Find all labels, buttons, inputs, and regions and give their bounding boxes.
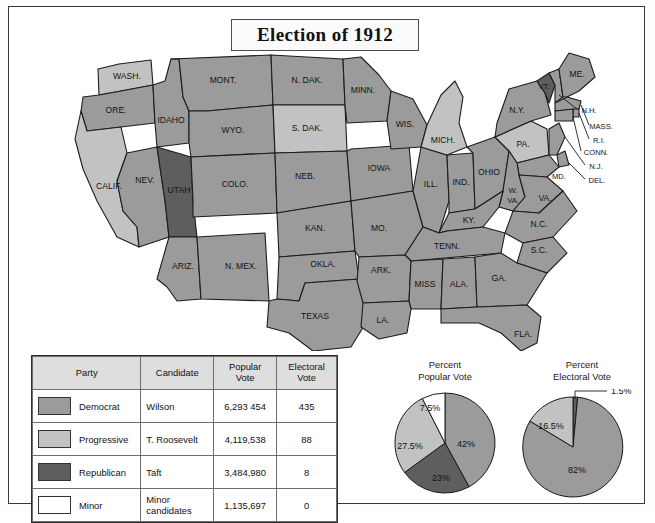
cell-candidate-minor: Minor candidates [141, 489, 214, 522]
state-label-minn: MINN. [351, 85, 375, 95]
leader-line-ri [579, 113, 589, 139]
state-del[interactable] [557, 151, 569, 167]
state-label-ky: KY. [463, 215, 476, 225]
state-label-idaho: IDAHO [157, 115, 185, 125]
state-label-va: VA. [538, 193, 551, 203]
state-label-tenn: TENN. [434, 241, 460, 251]
state-label-del: DEL. [589, 176, 606, 185]
cell-electoral-vote-democrat: 435 [277, 390, 337, 423]
table-row: Republican Taft 3,484,980 8 [33, 456, 337, 489]
state-label-mont: MONT. [210, 75, 237, 85]
electoral-vote-pie-title: Percent Electoral Vote [509, 359, 655, 383]
state-label-wva-line1: W. [509, 186, 518, 195]
state-conn[interactable] [555, 109, 573, 121]
state-label-ri: R.I. [593, 136, 605, 145]
cell-candidate-roosevelt: T. Roosevelt [141, 423, 214, 456]
state-label-ark: ARK. [371, 265, 391, 275]
page-title-text: Election of 1912 [257, 24, 393, 46]
column-header-electoral-line2: Vote [282, 373, 331, 384]
column-header-popular-line2: Vote [219, 373, 271, 384]
color-swatch-democrat [38, 397, 71, 415]
us-election-map: WASH. ORE. IDAHO MONT. N. DAK. MINN. WIS… [61, 51, 621, 351]
state-label-sc: S.C. [531, 245, 548, 255]
state-label-nc: N.C. [530, 219, 547, 229]
cell-popular-vote-minor: 1,135,697 [214, 489, 277, 522]
state-label-ind: IND. [452, 177, 469, 187]
state-label-calif: CALIF. [96, 181, 122, 191]
cell-candidate-taft: Taft [141, 456, 214, 489]
state-label-la: LA. [377, 315, 390, 325]
state-ark[interactable] [357, 255, 411, 303]
state-label-fla: FLA. [514, 329, 532, 339]
state-label-mass: MASS. [589, 122, 613, 131]
state-label-ill: ILL. [424, 179, 438, 189]
state-label-mich: MICH. [431, 135, 455, 145]
popular-vote-pie-chart: Percent Popular Vote 42% 23% 27.5% 7.5% [375, 359, 515, 499]
pie-label-progressive-pct: 27.5% [397, 441, 423, 451]
state-fla[interactable] [441, 305, 541, 351]
page-frame: Election of 1912 [8, 6, 645, 504]
table-row: Minor Minor candidates 1,135,697 0 [33, 489, 337, 522]
state-label-neb: NEB. [295, 171, 315, 181]
cell-candidate-wilson: Wilson [141, 390, 214, 423]
column-header-party: Party [33, 357, 141, 390]
state-nj[interactable] [549, 123, 565, 155]
state-label-me: ME. [569, 69, 584, 79]
table-header-row: Party Candidate Popular Vote Electoral V… [33, 357, 337, 390]
state-label-colo: COLO. [222, 179, 249, 189]
column-header-candidate: Candidate [141, 357, 214, 390]
state-label-wva-line2: VA. [507, 196, 519, 205]
cell-electoral-vote-minor: 0 [277, 489, 337, 522]
party-label-republican: Republican [79, 467, 126, 478]
state-label-okla: OKLA. [310, 259, 335, 269]
state-label-iowa: IOWA [368, 163, 391, 173]
cell-party-democrat: Democrat [33, 390, 141, 423]
cell-party-republican: Republican [33, 456, 141, 489]
state-label-mo: MO. [371, 223, 387, 233]
cell-electoral-vote-republican: 8 [277, 456, 337, 489]
cell-electoral-vote-progressive: 88 [277, 423, 337, 456]
state-label-texas: TEXAS [301, 311, 329, 321]
cell-popular-vote-democrat: 6,293 454 [214, 390, 277, 423]
color-swatch-progressive [38, 430, 71, 448]
state-label-ga: GA. [492, 273, 507, 283]
party-results-table: Party Candidate Popular Vote Electoral V… [31, 355, 338, 523]
state-label-kan: KAN. [305, 223, 325, 233]
electoral-vote-pie-title-line1: Percent [509, 359, 655, 371]
pie-label-democrat-pct: 42% [457, 439, 475, 449]
cell-popular-vote-republican: 3,484,980 [214, 456, 277, 489]
state-label-vt: VT. [539, 82, 550, 91]
pie-label-minor-pct: 7.5% [420, 403, 441, 413]
electoral-vote-pie-chart: Percent Electoral Vote 82% 16.5% 1.5% [509, 359, 655, 499]
state-label-pa: PA. [516, 139, 529, 149]
state-label-md: MD. [552, 172, 566, 181]
popular-vote-pie-title-line1: Percent [375, 359, 515, 371]
state-label-utah: UTAH [168, 185, 191, 195]
state-label-ohio: OHIO [478, 167, 500, 177]
pie-label-democrat-electoral-pct: 82% [568, 465, 586, 475]
pie-label-progressive-electoral-pct: 16.5% [538, 421, 564, 431]
pie-label-republican-electoral-pct: 1.5% [611, 389, 632, 396]
cell-party-minor: Minor [33, 489, 141, 522]
state-label-ore: ORE. [105, 105, 126, 115]
table-row: Progressive T. Roosevelt 4,119,538 88 [33, 423, 337, 456]
state-label-nj: N.J. [589, 162, 603, 171]
state-ri[interactable] [573, 109, 579, 117]
table-row: Democrat Wilson 6,293 454 435 [33, 390, 337, 423]
state-label-conn: CONN. [584, 148, 608, 157]
party-label-democrat: Democrat [79, 401, 120, 412]
candidate-minor-line2: candidates [146, 505, 208, 516]
popular-vote-pie-title: Percent Popular Vote [375, 359, 515, 383]
popular-vote-pie-title-line2: Popular Vote [375, 371, 515, 383]
page-title: Election of 1912 [231, 19, 419, 51]
pie-label-republican-pct: 23% [432, 473, 450, 483]
color-swatch-minor [38, 496, 71, 514]
state-label-miss: MISS [414, 279, 435, 289]
state-label-ariz: ARIZ. [172, 261, 194, 271]
state-label-ny: N.Y. [509, 105, 525, 115]
party-label-progressive: Progressive [79, 434, 129, 445]
color-swatch-republican [38, 463, 71, 481]
party-label-minor: Minor [79, 500, 102, 511]
state-label-nmex: N. MEX. [225, 261, 257, 271]
